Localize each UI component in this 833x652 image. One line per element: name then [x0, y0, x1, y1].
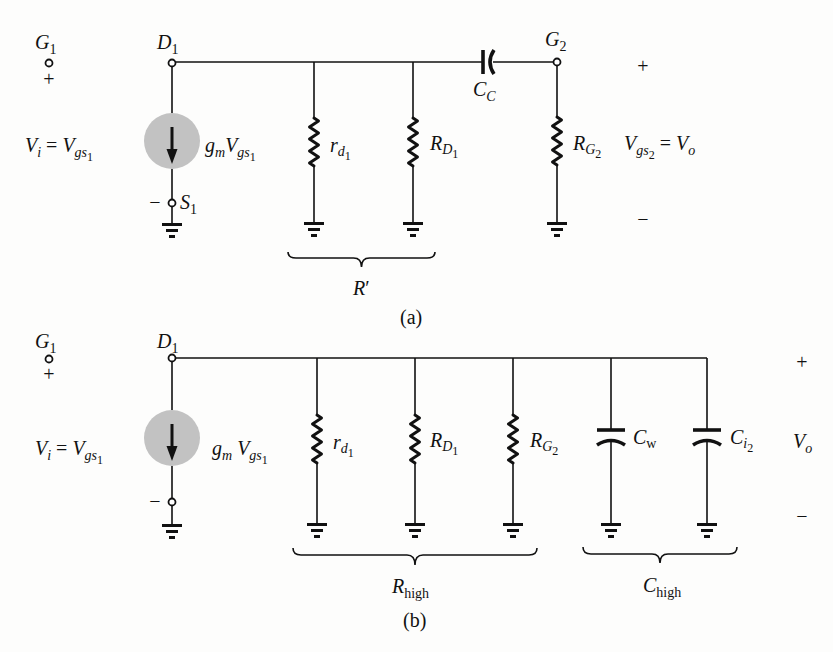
resistor-rG2-icon — [509, 415, 518, 463]
source-polarity-minus: − — [149, 490, 160, 512]
ground-icon — [601, 523, 621, 538]
label-base: G — [545, 28, 560, 50]
label-subscript: high — [656, 585, 681, 600]
output-polarity-plus: + — [637, 55, 648, 77]
output-polarity-plus: + — [796, 351, 807, 373]
label-subscript: G — [542, 439, 552, 454]
label-subscript: 1 — [190, 202, 197, 217]
label-base: g — [212, 437, 222, 460]
g1-polarity-plus: + — [43, 68, 54, 90]
label-output-voltage: Vo — [793, 430, 812, 456]
label-base: R — [529, 429, 542, 451]
label-subscript: o — [805, 441, 812, 456]
label-r-high: Rhigh — [391, 575, 429, 601]
label-subscript: 1 — [171, 42, 178, 57]
label-base: D — [156, 31, 172, 53]
label-cc: CC — [473, 78, 496, 104]
label-g1: G1 — [35, 31, 56, 57]
label-subsubscript: 2 — [747, 441, 753, 455]
ground-icon — [697, 523, 717, 538]
label-subsubscript: 1 — [348, 446, 354, 460]
label-equals: = — [51, 437, 72, 459]
brace-r-prime — [288, 252, 435, 267]
label-subsubscript: 1 — [452, 147, 458, 161]
caption-b: (b) — [403, 609, 426, 632]
label-base: D — [156, 330, 172, 352]
label-subsubscript: 1 — [262, 453, 268, 467]
label-base: R — [352, 277, 365, 299]
ground-icon — [503, 523, 523, 538]
label-subscript: G — [585, 142, 595, 157]
label-base: R — [429, 132, 442, 154]
ground-icon — [162, 524, 182, 539]
g2-terminal-node — [554, 59, 561, 66]
circuit-diagram: G1 + D1 Vi = Vgs1 gmVgs1 − S1 rd1 RD1 CC… — [0, 0, 833, 652]
label-rd1: rd1 — [333, 431, 354, 460]
ground-icon — [162, 223, 182, 238]
circuit-figure: G1 + D1 Vi = Vgs1 gmVgs1 − S1 rd1 RD1 CC… — [0, 0, 833, 652]
g1-terminal-node — [46, 356, 53, 363]
ground-icon — [304, 222, 324, 237]
label-subscript: gs — [75, 145, 88, 160]
label-base: C — [730, 426, 744, 448]
brace-r-high — [293, 548, 537, 565]
label-subscript: 2 — [559, 39, 566, 54]
label-r-prime: R′ — [352, 277, 370, 299]
label-s1: S1 — [180, 191, 197, 217]
label-subsubscript: 1 — [250, 150, 256, 164]
label-subscript: gs — [85, 448, 98, 463]
label-base: G — [35, 31, 50, 53]
label-subscript: D — [441, 439, 452, 454]
panel-b: G1 + D1 Vi = Vgs1 gm Vgs1 − rd1 RD1 RG2 … — [35, 330, 812, 632]
label-prime: ′ — [365, 277, 369, 299]
label-rG2: RG2 — [572, 132, 601, 161]
label-base: G — [35, 330, 50, 352]
label-current-source: gm Vgs1 — [212, 437, 268, 467]
label-subsubscript: 2 — [552, 444, 558, 458]
label-base: R — [391, 575, 404, 597]
label-d1: D1 — [156, 31, 178, 57]
label-base: g — [205, 134, 215, 157]
label-subsubscript: 1 — [345, 149, 351, 163]
label-ci2: Ci2 — [730, 426, 753, 455]
label-subscript: D — [441, 142, 452, 157]
label-rD1: RD1 — [429, 429, 458, 458]
label-subscript: w — [646, 436, 657, 451]
label-base: r — [333, 431, 341, 453]
label-subscript: 1 — [171, 341, 178, 356]
resistor-rG2-icon — [553, 117, 562, 165]
label-subscript: C — [486, 89, 496, 104]
label-base: C — [643, 574, 657, 596]
d1-terminal-node — [169, 60, 176, 67]
caption-a: (a) — [400, 306, 422, 329]
label-current-source: gmVgs1 — [205, 134, 256, 164]
resistor-rd1-icon — [310, 118, 319, 166]
panel-a: G1 + D1 Vi = Vgs1 gmVgs1 − S1 rd1 RD1 CC… — [25, 28, 695, 329]
label-subscript: gs — [249, 448, 262, 463]
ground-icon — [307, 523, 327, 538]
label-c-high: Chigh — [643, 574, 681, 600]
label-base: R — [429, 429, 442, 451]
label-g2: G2 — [545, 28, 566, 54]
label-subscript: gs — [636, 143, 649, 158]
label-d1: D1 — [156, 330, 178, 356]
g1-polarity-plus: + — [43, 363, 54, 385]
ground-icon — [547, 222, 567, 237]
label-g1: G1 — [35, 330, 56, 356]
label-equals: = — [655, 132, 676, 154]
label-rD1: RD1 — [429, 132, 458, 161]
source-terminal-node — [169, 499, 176, 506]
label-equals: = — [41, 134, 62, 156]
output-polarity-minus: − — [637, 208, 648, 230]
label-rG2: RG2 — [529, 429, 558, 458]
label-subscript: m — [222, 448, 232, 463]
brace-c-high — [583, 547, 737, 563]
s1-polarity-minus: − — [149, 191, 160, 213]
label-input-voltage: Vi = Vgs1 — [35, 437, 103, 467]
g1-terminal-node — [46, 60, 53, 67]
resistor-rD1-icon — [411, 415, 420, 463]
label-subscript: gs — [237, 145, 250, 160]
label-subsubscript: 1 — [87, 150, 93, 164]
label-input-voltage: Vi = Vgs1 — [25, 134, 93, 164]
resistor-rd1-icon — [313, 415, 322, 463]
